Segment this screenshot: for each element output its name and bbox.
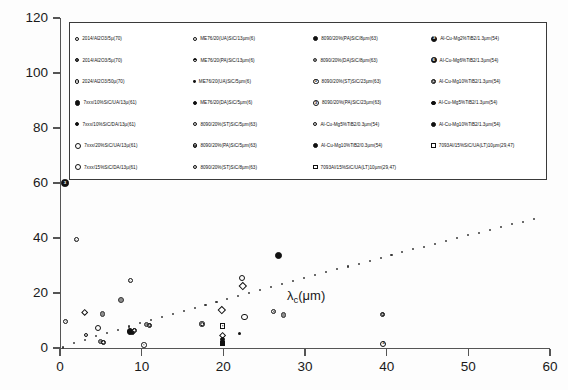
legend-label: 8090/20%(PA)SiC/23µm(63) (322, 100, 381, 105)
model-curve-dot (139, 322, 141, 324)
model-curve-dot (106, 332, 108, 334)
lambda-unit: (μm) (298, 288, 325, 303)
marker-numinv: 3 (431, 36, 437, 42)
legend-entry: 8090/20%(PA)SiC/8µm(63) (313, 36, 431, 41)
marker-dot (75, 79, 79, 83)
model-curve-dot (467, 234, 469, 236)
data-point (238, 332, 241, 335)
legend-label: 2024/Al2O3/50µ(70) (82, 79, 124, 84)
marker-fill (313, 36, 318, 41)
x-tick-label: 20 (203, 359, 243, 374)
data-point: 3 (380, 341, 386, 347)
marker-fill (75, 100, 80, 105)
data-point (275, 252, 282, 259)
legend-label: 7xxx/10%SiC/UA/13µ(61) (83, 100, 136, 105)
model-curve-dot (369, 260, 371, 262)
marker-dbl (431, 79, 436, 84)
model-curve-dot (434, 243, 436, 245)
model-curve-dot (456, 237, 458, 239)
data-point (98, 339, 103, 344)
model-curve-dot (336, 268, 338, 270)
model-curve-dot (259, 289, 261, 291)
model-curve-dot (117, 329, 119, 331)
model-curve-dot (489, 229, 491, 231)
marker-halfv (193, 58, 197, 62)
model-curve-dot (380, 257, 382, 259)
y-axis-line (60, 18, 61, 349)
x-tick-mark (59, 349, 60, 356)
legend-label: 8090/20%(ST)SiC/23µm(63) (322, 79, 381, 84)
legend-label: 2014/Al2O3/5µ(70) (82, 58, 122, 63)
y-tick-mark (53, 72, 60, 73)
data-point: 3 (61, 179, 69, 187)
legend-label: Al-Cu-Mg5%TiB2/1.3µm(54) (439, 100, 498, 105)
legend-label: ME76/20(DA)SiC/5µm(6) (200, 100, 252, 105)
y-tick-mark (53, 237, 60, 238)
legend-label: 8090/20%(ST)SiC/8µm(63) (200, 165, 257, 170)
legend-label: ME76/20(UA)SiC/5µm(6) (199, 79, 251, 84)
marker-fill (193, 101, 197, 105)
x-tick-mark (386, 349, 387, 356)
data-point (130, 330, 136, 336)
legend-entry: Al-Cu-Mg5%TiB2/1.3µm(54) (431, 100, 549, 105)
marker-ring (75, 164, 81, 170)
data-point (144, 322, 149, 327)
data-point (380, 312, 385, 317)
legend-entry: 7093Al/15%SiC/UA(LT)10µm(29,47) (313, 165, 431, 170)
model-curve-dot (423, 246, 425, 248)
legend-label: Al-Cu-Mg10%TiB2/1.3µm(54) (439, 122, 500, 127)
y-tick-label: 40 (0, 231, 48, 245)
data-point (74, 237, 79, 242)
model-curve-dot (270, 286, 272, 288)
legend-entry: ME76/20(DA)SiC/5µm(6) (193, 100, 313, 105)
model-curve-dot (401, 251, 403, 253)
legend-entry: Al-Cu-Mg10%TiB2/0.3µm(54) (313, 143, 431, 148)
marker-fill (313, 143, 318, 148)
marker-dot (313, 122, 317, 126)
legend-label: ME76/20(PA)SiC/13µm(6) (200, 58, 254, 63)
y-tick-label: 80 (0, 121, 48, 135)
legend-box: 2014/Al2O3/5µ(70)ME76/20(UA)SiC/13µm(6)8… (69, 22, 547, 180)
model-curve-dot (511, 223, 513, 225)
data-point (63, 319, 68, 324)
y-tick-label: 20 (0, 286, 48, 300)
model-curve-dot (194, 307, 196, 309)
legend-entry: 38090/20%(ST)SiC/23µm(63) (313, 79, 431, 85)
model-curve-dot (347, 265, 349, 267)
data-point (132, 328, 137, 333)
legend-label: 8090/20%(ST)SiC/5µm(63) (200, 122, 257, 127)
x-tick-mark (141, 349, 142, 356)
marker-tiny (193, 80, 196, 83)
legend-label: Al-Cu-Mg10%TiB2/1.3µm(54) (439, 79, 500, 84)
x-tick-mark (468, 349, 469, 356)
model-curve-dot (226, 298, 228, 300)
data-point (141, 342, 146, 347)
marker-dot (193, 122, 197, 126)
marker-numinv: 6 (431, 57, 437, 63)
legend-entry: 7xxx/20%SiC/UA/13µ(61) (75, 143, 193, 149)
data-point (101, 340, 106, 345)
chart-root: 020406080100120 0102030405060 COD (σ) m … (0, 0, 568, 390)
legend-label: Al-Cu-Mg10%TiB2/0.3µm(54) (321, 143, 382, 148)
marker-dbl (75, 58, 79, 62)
data-point (95, 325, 101, 331)
x-tick-label: 30 (285, 359, 325, 374)
legend-entry: 2014/Al2O3/5µ(70) (75, 58, 193, 63)
marker-grey (313, 58, 317, 62)
model-curve-dot (84, 339, 86, 341)
legend-label: ME76/20(UA)SiC/13µm(6) (200, 36, 255, 41)
marker-num: 3 (313, 79, 319, 85)
marker-dot (193, 165, 197, 169)
model-curve-dot (248, 292, 250, 294)
data-point (81, 309, 89, 317)
legend-label: 8090/20%(PA)SiC/5µm(63) (200, 143, 257, 148)
data-point (241, 314, 247, 320)
model-curve-dot (161, 316, 163, 318)
model-curve-dot (237, 295, 239, 297)
y-tick-mark (53, 17, 60, 18)
y-tick-mark (53, 292, 60, 293)
legend-label: Al-Cu-Mg5%TiB2/0.3µm(54) (320, 122, 379, 127)
x-tick-label: 0 (40, 359, 80, 374)
model-curve-dot (390, 254, 392, 256)
data-point (239, 282, 247, 290)
